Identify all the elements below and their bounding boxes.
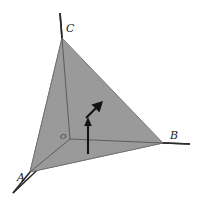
z-axis-stub-above-c	[60, 13, 62, 38]
x-axis-stub-beyond-b	[163, 143, 190, 144]
vertex-label-a: A	[16, 171, 25, 184]
vertex-label-c: C	[66, 22, 75, 35]
vertex-label-b: B	[169, 129, 178, 142]
origin-label: O	[60, 132, 67, 141]
geometry-figure: C B A O	[0, 0, 198, 203]
